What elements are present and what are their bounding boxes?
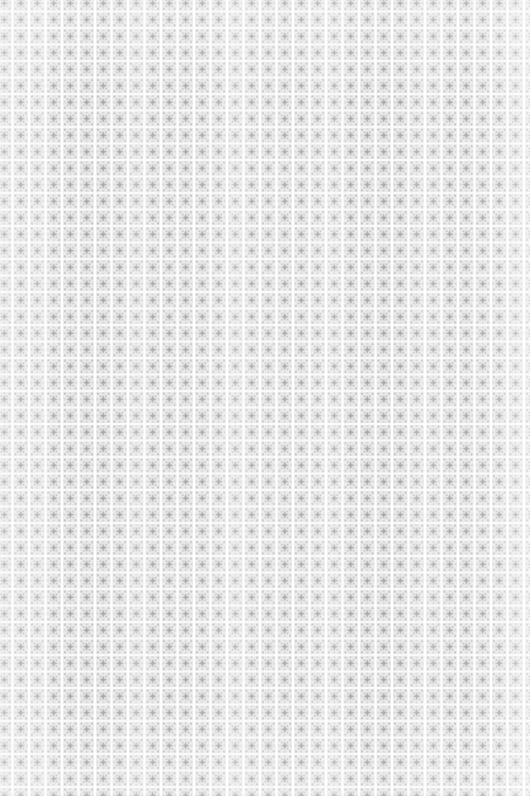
ornamental-tile-pattern — [0, 0, 530, 796]
pattern-swatch — [0, 0, 530, 796]
